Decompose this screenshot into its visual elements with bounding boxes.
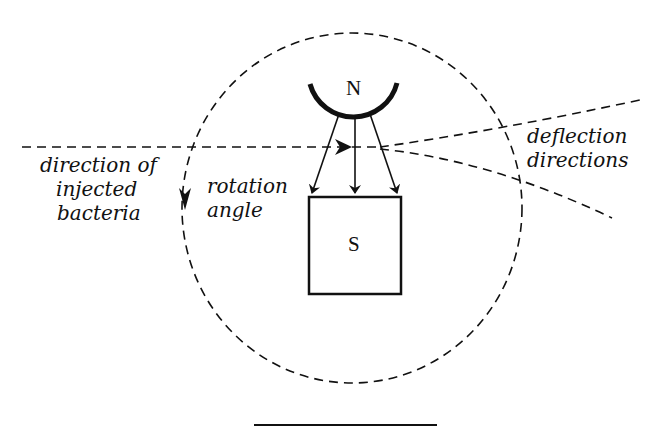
injected-label-line3: bacteria — [57, 201, 141, 225]
south-pole-label: S — [348, 232, 360, 257]
magnetic-deflection-diagram: N S direction of injected bacteria rotat… — [0, 0, 647, 446]
rotation-label-line1: rotation — [207, 174, 288, 198]
injected-label-line1: direction of — [40, 153, 157, 177]
rotation-arrow-icon — [179, 188, 191, 210]
field-line-left — [312, 114, 339, 193]
rotation-label-line2: angle — [207, 198, 263, 222]
field-line-right — [370, 114, 397, 193]
deflection-label-line1: deflection — [527, 124, 627, 148]
north-pole-label: N — [346, 76, 361, 101]
injected-label-line2: injected — [56, 177, 137, 201]
deflection-label-line2: directions — [527, 148, 628, 172]
